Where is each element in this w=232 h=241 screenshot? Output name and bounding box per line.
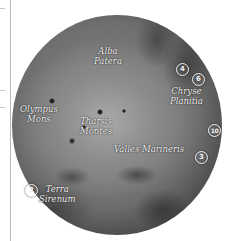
- margin-line: [10, 0, 11, 241]
- label-line: Planitia: [170, 96, 203, 106]
- marker-4: 4: [176, 63, 189, 76]
- label-line: Chryse: [170, 86, 203, 96]
- label-valles-marineris: Valles Marineris: [114, 144, 184, 154]
- label-line: Patera: [94, 56, 122, 66]
- label-line: Mons: [20, 114, 58, 124]
- label-line: Valles Marineris: [114, 144, 184, 154]
- label-olympus-mons: Olympus Mons: [20, 104, 58, 124]
- marker-10: 10: [208, 124, 221, 137]
- label-terra-sirenum: Terra Sirenum: [39, 184, 76, 204]
- margin-tick: [0, 107, 5, 108]
- label-tharsis-montes: Tharsis Montes: [80, 116, 112, 136]
- label-line: Terra: [39, 184, 76, 194]
- label-line: Sirenum: [39, 194, 76, 204]
- margin-tick: [0, 8, 5, 9]
- label-line: Alba: [94, 46, 122, 56]
- margin-tick: [0, 90, 5, 91]
- label-line: Tharsis: [80, 116, 112, 126]
- label-alba-patera: Alba Patera: [94, 46, 122, 66]
- label-chryse-planitia: Chryse Planitia: [170, 86, 203, 106]
- marker-6: 6: [192, 73, 205, 86]
- label-line: Montes: [80, 126, 112, 136]
- marker-3: 3: [195, 151, 208, 164]
- marker-2: 2: [25, 184, 38, 197]
- label-line: Olympus: [20, 104, 58, 114]
